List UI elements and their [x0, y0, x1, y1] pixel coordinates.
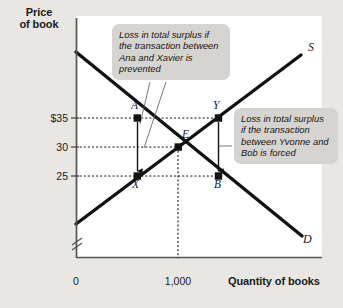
data-point-b: [215, 172, 222, 179]
data-point-y: [215, 114, 222, 121]
callout-left-leader-a: [140, 82, 150, 124]
data-point-x: [134, 172, 141, 179]
supply-demand-figure: Price of book Quantity of books $35 30 2…: [0, 0, 343, 308]
data-point-a: [134, 114, 141, 121]
callout-ana-xavier: Loss in total surplus if the transaction…: [112, 24, 230, 80]
data-point-e: [175, 143, 182, 150]
callout-yvonne-bob: Loss in total surplus if the transaction…: [234, 108, 338, 164]
